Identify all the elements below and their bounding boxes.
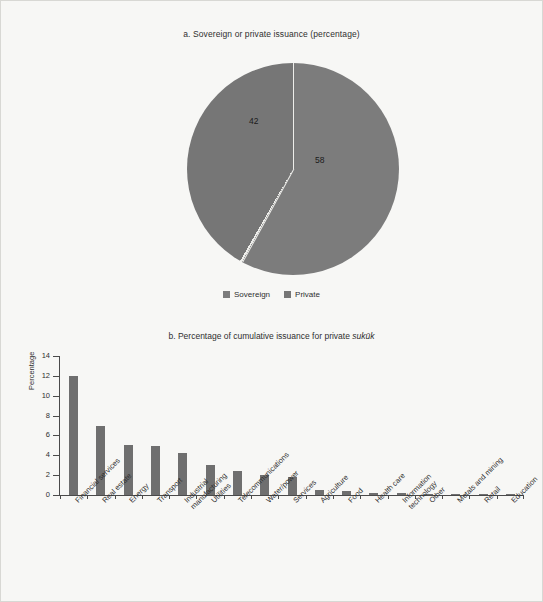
- legend-label-sovereign: Sovereign: [234, 290, 270, 299]
- bar-category: [142, 356, 169, 495]
- y-axis-tick: 14: [53, 356, 59, 357]
- y-axis-tick: 12: [53, 376, 59, 377]
- panel-b-title-text: b. Percentage of cumulative issuance for…: [168, 331, 352, 341]
- pie-legend: Sovereign Private: [1, 290, 542, 299]
- legend-swatch-icon: [223, 291, 230, 298]
- x-axis-label: Water/power: [265, 499, 271, 505]
- y-axis-tick: 6: [53, 435, 59, 436]
- y-axis-tick: 4: [53, 455, 59, 456]
- x-axis-label: Food: [347, 499, 353, 505]
- x-axis-label: Utilities: [210, 499, 216, 505]
- bar-category: [442, 356, 469, 495]
- bar: [124, 445, 133, 495]
- pie-separator-top: [293, 63, 294, 169]
- x-axis-label: Services: [292, 499, 298, 505]
- y-axis-tick-label: 2: [46, 470, 50, 479]
- y-axis-tick-label: 12: [42, 371, 50, 380]
- pie-label-private: 58: [315, 155, 324, 165]
- x-axis-label: Other: [428, 499, 434, 505]
- panel-a-title: a. Sovereign or private issuance (percen…: [1, 29, 542, 39]
- bar-category: [306, 356, 333, 495]
- bar-category: [224, 356, 251, 495]
- bar: [69, 376, 78, 495]
- bar-category: [360, 356, 387, 495]
- x-axis-label: Real estate: [101, 499, 107, 505]
- y-axis-tick-label: 4: [46, 450, 50, 459]
- x-axis-label: Agriculture: [319, 499, 325, 505]
- y-axis-tick-label: 8: [46, 411, 50, 420]
- y-axis-tick: 8: [53, 416, 59, 417]
- bar-category: [497, 356, 524, 495]
- y-axis-tick-label: 14: [42, 351, 50, 360]
- x-axis-label: Health care: [374, 499, 380, 505]
- x-axis-label: Metals and mining: [456, 499, 462, 505]
- y-axis-tick: 0: [53, 495, 59, 496]
- x-axis-label: Energy: [128, 499, 134, 505]
- bar: [151, 446, 160, 495]
- legend-item-private: Private: [284, 290, 320, 299]
- y-axis-tick: 2: [53, 475, 59, 476]
- pie-label-sovereign: 42: [249, 116, 258, 126]
- x-axis-label: Education: [510, 499, 516, 505]
- bar: [233, 471, 242, 495]
- panel-b-title: b. Percentage of cumulative issuance for…: [1, 331, 542, 341]
- x-axis-label: Financial services: [74, 499, 80, 505]
- pie-chart: 42 58: [187, 63, 399, 275]
- y-axis-tick: 10: [53, 396, 59, 397]
- legend-label-private: Private: [295, 290, 320, 299]
- x-axis-label: Transport: [156, 499, 162, 505]
- x-axis-label: Retail: [483, 499, 489, 505]
- panel-b-title-sukuk: sukūk: [352, 331, 374, 341]
- x-axis-label: Industrial manufacturing: [183, 499, 195, 511]
- x-axis-label: Information technology: [401, 499, 413, 511]
- legend-swatch-icon: [284, 291, 291, 298]
- figure-page: a. Sovereign or private issuance (percen…: [0, 0, 543, 602]
- bar: [178, 453, 187, 495]
- bar-category: [60, 356, 87, 495]
- y-axis-tick-label: 6: [46, 430, 50, 439]
- bar-category: [169, 356, 196, 495]
- legend-item-sovereign: Sovereign: [223, 290, 270, 299]
- x-axis-label: Telecommunications: [237, 499, 243, 505]
- x-axis-category-labels: Financial servicesReal estateEnergyTrans…: [29, 499, 524, 599]
- y-axis-label: Percentage: [27, 352, 36, 390]
- y-axis-tick-label: 0: [46, 490, 50, 499]
- bar-category: [333, 356, 360, 495]
- y-axis-tick-label: 10: [42, 391, 50, 400]
